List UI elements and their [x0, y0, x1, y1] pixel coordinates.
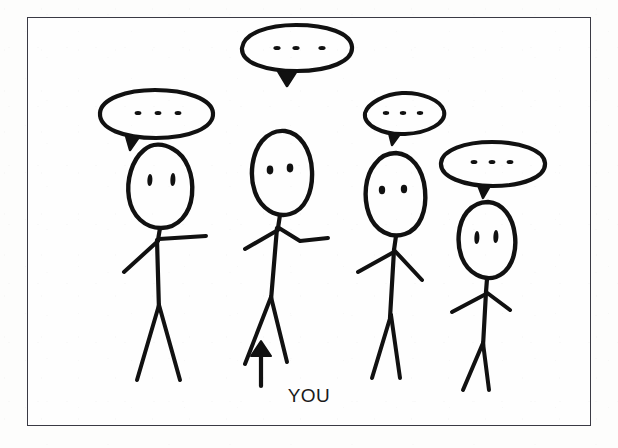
you-arrow: [251, 341, 271, 386]
stick-figure-1: [124, 145, 206, 380]
cartoon-scene: YOU: [0, 0, 618, 448]
figure-1-eyes: [147, 173, 175, 186]
speech-bubble-2: [242, 25, 352, 86]
stick-figure-3: [358, 153, 425, 378]
bubble-4-dots: [471, 160, 514, 164]
you-arrow-label: YOU: [0, 385, 618, 407]
speech-bubble-1: [100, 90, 213, 150]
bubble-3-dots: [383, 111, 423, 115]
bubble-1-dots: [135, 111, 182, 115]
figure-4-eyes: [474, 230, 498, 244]
bubble-2-dots: [273, 46, 325, 50]
hand-drawn-illustration: [0, 0, 618, 448]
figure-3-eyes: [379, 185, 407, 194]
speech-bubble-4: [441, 142, 545, 198]
figure-2-eyes: [267, 164, 294, 175]
stick-figure-4: [452, 202, 515, 390]
stick-figure-2-you: [245, 131, 328, 364]
speech-bubble-3: [365, 93, 444, 145]
